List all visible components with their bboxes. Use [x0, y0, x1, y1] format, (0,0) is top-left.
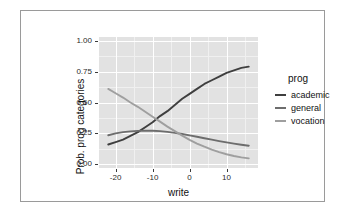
legend-key-icon	[274, 116, 287, 127]
x-axis-title: write	[99, 187, 258, 198]
series-curves	[99, 37, 258, 168]
legend-key-icon	[274, 103, 287, 114]
plot-panel	[99, 37, 258, 168]
legend-key-line	[275, 94, 286, 96]
legend: prog academicgeneralvocation	[274, 73, 344, 128]
legend-item-vocation[interactable]: vocation	[274, 115, 344, 127]
legend-item-label: general	[291, 103, 321, 113]
series-line-vocation	[108, 89, 249, 158]
legend-item-label: academic	[291, 90, 330, 100]
x-tick-mark	[153, 169, 154, 172]
legend-item-general[interactable]: general	[274, 102, 344, 114]
legend-key-icon	[274, 90, 287, 101]
legend-key-line	[275, 120, 286, 122]
legend-items: academicgeneralvocation	[274, 89, 344, 127]
y-tick-mark	[95, 133, 98, 134]
x-tick-label: -20	[96, 174, 136, 182]
legend-item-academic[interactable]: academic	[274, 89, 344, 101]
x-tick-mark	[227, 169, 228, 172]
legend-item-label: vocation	[291, 116, 325, 126]
legend-title: prog	[288, 73, 344, 84]
y-tick-mark	[95, 41, 98, 42]
x-tick-label: -10	[133, 174, 173, 182]
x-tick-label: 0	[170, 174, 210, 182]
plot-device-frame: 0.000.250.500.751.00 Prob. prog categori…	[20, 10, 325, 202]
x-tick-label: 10	[207, 174, 247, 182]
y-tick-mark	[95, 164, 98, 165]
y-axis-title: Prob. prog categories	[75, 61, 86, 192]
x-tick-mark	[116, 169, 117, 172]
legend-key-line	[275, 107, 286, 109]
y-axis-title-wrap: Prob. prog categories	[52, 37, 66, 168]
y-tick-mark	[95, 103, 98, 104]
figure-canvas: 0.000.250.500.751.00 Prob. prog categori…	[0, 0, 345, 212]
y-tick-mark	[95, 72, 98, 73]
x-tick-mark	[190, 169, 191, 172]
